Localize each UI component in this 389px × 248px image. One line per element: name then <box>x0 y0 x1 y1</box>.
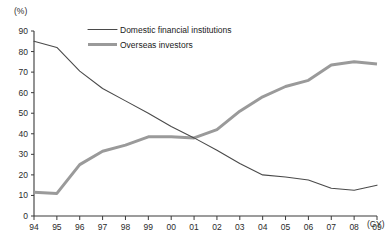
x-tick-label: 04 <box>258 222 268 232</box>
x-tick-label: 06 <box>304 222 314 232</box>
y-tick-label: 40 <box>19 129 29 139</box>
x-tick-label: 09 <box>372 222 382 232</box>
y-tick-label: 30 <box>19 149 29 159</box>
chart-legend: Domestic financial institutions Overseas… <box>88 25 232 50</box>
x-tick-label: 00 <box>166 222 176 232</box>
x-axis-group: 94959697989900010203040506070809 <box>29 216 382 232</box>
chart-container: (%) (CY) 0102030405060708090 94959697989… <box>0 0 389 248</box>
y-tick-label: 20 <box>19 170 29 180</box>
y-tick-label: 10 <box>19 190 29 200</box>
x-tick-marks <box>34 216 377 220</box>
y-tick-label: 50 <box>19 108 29 118</box>
x-tick-label: 94 <box>29 222 39 232</box>
x-tick-label: 07 <box>327 222 337 232</box>
y-tick-label: 80 <box>19 47 29 57</box>
x-tick-label: 02 <box>212 222 222 232</box>
x-tick-labels: 94959697989900010203040506070809 <box>29 222 382 232</box>
y-tick-labels: 0102030405060708090 <box>19 26 29 221</box>
legend-label-domestic-financial-institutions: Domestic financial institutions <box>120 25 232 35</box>
x-tick-label: 03 <box>235 222 245 232</box>
x-tick-label: 08 <box>349 222 359 232</box>
x-tick-label: 01 <box>189 222 199 232</box>
y-tick-label: 60 <box>19 88 29 98</box>
x-tick-label: 96 <box>75 222 85 232</box>
series-line-overseas-investors <box>34 62 377 194</box>
y-axis-group: 0102030405060708090 <box>19 26 34 221</box>
series-line-domestic-financial-institutions <box>34 41 377 190</box>
line-chart-plot: 0102030405060708090 94959697989900010203… <box>0 0 389 248</box>
y-tick-label: 70 <box>19 67 29 77</box>
legend-label-overseas-investors: Overseas investors <box>120 40 193 50</box>
x-tick-label: 97 <box>98 222 108 232</box>
y-tick-label: 90 <box>19 26 29 36</box>
x-tick-label: 05 <box>281 222 291 232</box>
x-tick-label: 98 <box>121 222 131 232</box>
x-tick-label: 95 <box>52 222 62 232</box>
x-tick-label: 99 <box>144 222 154 232</box>
series-group <box>34 41 377 193</box>
y-tick-label: 0 <box>23 211 28 221</box>
